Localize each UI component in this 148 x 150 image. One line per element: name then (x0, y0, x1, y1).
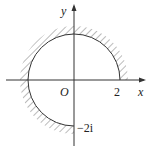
x-axis-label: x (138, 86, 143, 98)
x-axis-arrow-icon (139, 78, 146, 83)
y-axis-arrow-icon (72, 4, 77, 11)
diagram-canvas (0, 0, 148, 150)
y-tick-label: −2i (77, 122, 93, 134)
x-tick-label: 2 (114, 86, 120, 98)
y-axis-label: y (61, 5, 66, 17)
origin-label: O (60, 86, 69, 98)
complex-plane-diagram: y x O 2 −2i (0, 0, 148, 150)
